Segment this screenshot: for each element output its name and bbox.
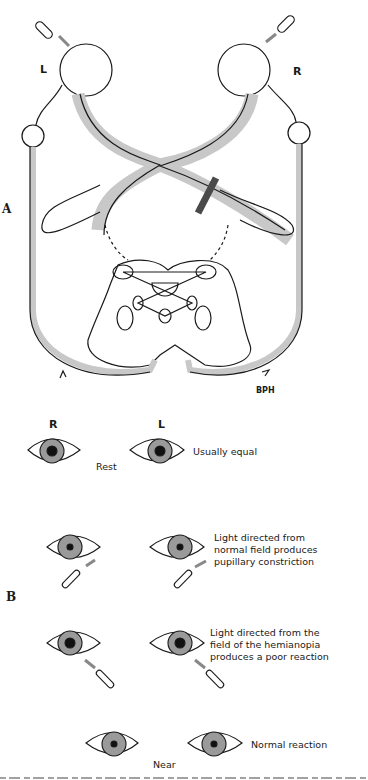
note-hemianopic-field: Light directed from the field of the hem… [210, 627, 330, 663]
eye-icon [130, 439, 184, 463]
truncated-caption [0, 774, 368, 780]
penlight-icon [85, 660, 115, 689]
penlight-icon [173, 561, 206, 589]
penlight-icon [34, 20, 69, 46]
eye-icon [150, 535, 204, 559]
column-label-r: R [49, 418, 57, 431]
penlight-icon [61, 560, 95, 589]
eye-left-label: L [40, 63, 47, 76]
eye-icon [188, 732, 242, 756]
note-rest: Usually equal [193, 446, 257, 458]
left-eyeball [60, 44, 112, 96]
eye-icon [86, 732, 138, 756]
penlight-icon [195, 660, 225, 689]
panel-a-label: A [2, 202, 11, 216]
penlight-icon [266, 14, 296, 42]
eye-icon [28, 439, 80, 463]
eye-icon [47, 535, 100, 559]
right-eyeball [218, 44, 270, 96]
state-rest: Rest [96, 461, 117, 473]
state-near: Near [153, 759, 176, 771]
panel-b-label: B [6, 590, 16, 604]
note-normal-field: Light directed from normal field produce… [214, 532, 324, 568]
eye-icon [47, 631, 100, 655]
pupillary-pathway-diagram [0, 0, 368, 780]
eye-icon [150, 631, 204, 655]
column-label-l: L [158, 418, 165, 431]
artist-signature: BPH [256, 386, 275, 395]
note-near: Normal reaction [251, 739, 327, 751]
eye-right-label: R [293, 65, 301, 78]
